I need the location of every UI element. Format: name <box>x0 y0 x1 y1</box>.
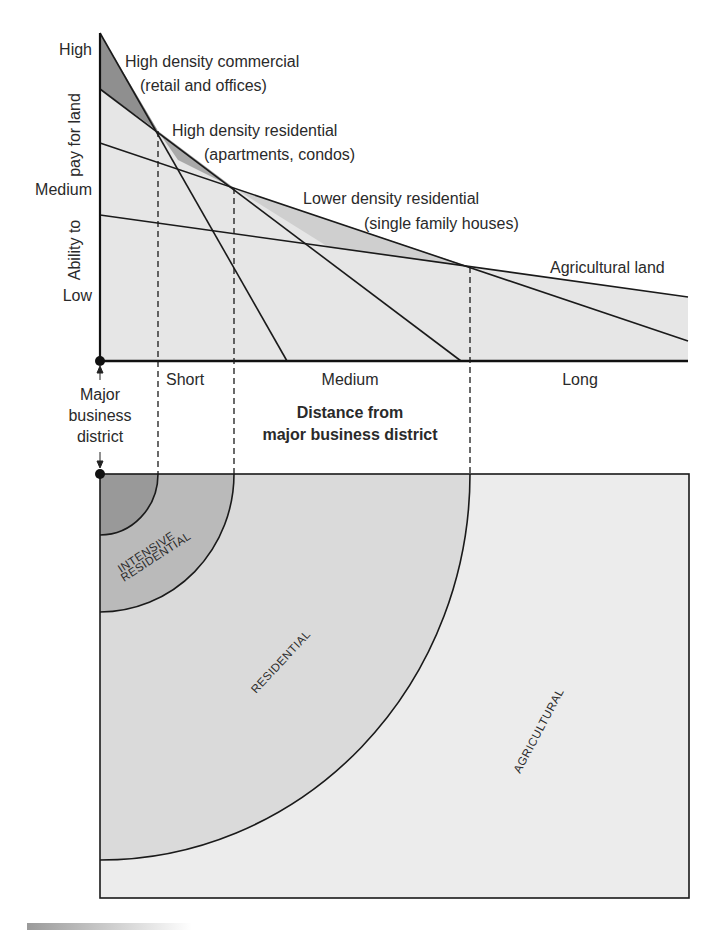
arrow-up-head-icon <box>97 366 103 373</box>
high-res-label-line1: High density residential <box>172 122 337 139</box>
low-res-label-line1: Lower density residential <box>303 190 479 207</box>
origin-label-line3: district <box>77 428 124 445</box>
y-tick-low: Low <box>63 287 93 304</box>
x-tick-long: Long <box>562 371 598 388</box>
map-origin-dot <box>95 469 105 479</box>
x-tick-short: Short <box>166 371 205 388</box>
origin-dot <box>95 356 105 366</box>
origin-label-line1: Major <box>80 386 121 403</box>
bid-rent-diagram: High Medium Low pay for land Ability to … <box>0 0 714 934</box>
arrow-down-head-icon <box>97 461 103 468</box>
y-axis-title-line1: Ability to <box>66 220 83 281</box>
y-tick-high: High <box>59 41 92 58</box>
y-tick-medium: Medium <box>35 181 92 198</box>
agricultural-label: Agricultural land <box>550 259 665 276</box>
decorative-fade-bar <box>27 923 192 930</box>
low-res-label-line2: (single family houses) <box>364 215 519 232</box>
high-res-label-line2: (apartments, condos) <box>204 146 355 163</box>
commercial-label-line2: (retail and offices) <box>140 77 267 94</box>
x-axis-title-line1: Distance from <box>297 404 404 421</box>
x-tick-medium: Medium <box>322 371 379 388</box>
commercial-label-line1: High density commercial <box>125 53 299 70</box>
x-axis-title-line2: major business district <box>262 426 438 443</box>
bid-rent-graph: High Medium Low pay for land Ability to … <box>35 33 688 474</box>
y-axis-title-line2: pay for land <box>66 93 83 177</box>
origin-label-line2: business <box>68 407 131 424</box>
